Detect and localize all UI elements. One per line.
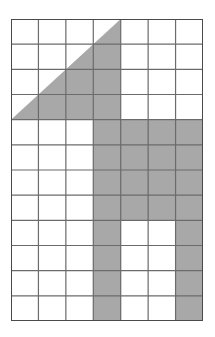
figure-root	[0, 0, 215, 337]
shaded-grid-figure	[11, 19, 203, 321]
gridlines-layer	[11, 19, 203, 321]
grid-lines	[11, 19, 203, 321]
